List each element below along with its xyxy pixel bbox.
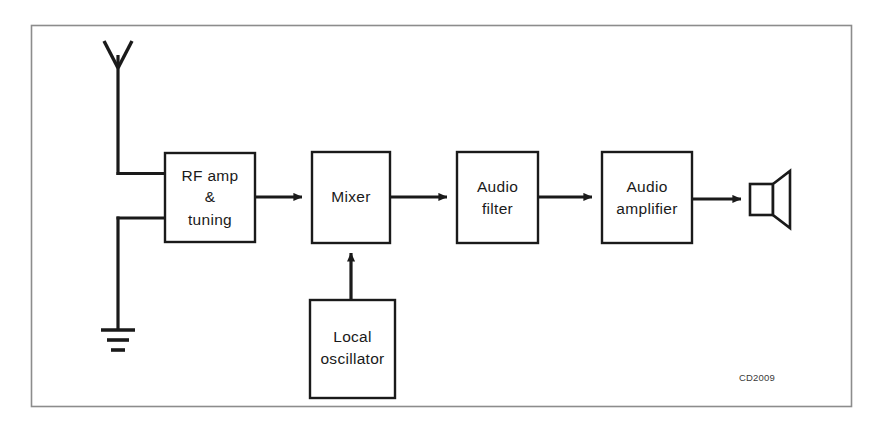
block-label-audio-filter-line-1: Audio <box>477 178 518 195</box>
block-diagram: RF amp & tuning Mixer Local oscillator A… <box>0 0 880 429</box>
block-mixer[interactable]: Mixer <box>312 152 390 243</box>
figure-canvas: RF amp & tuning Mixer Local oscillator A… <box>0 0 880 429</box>
figure-code-label: CD2009 <box>739 372 775 383</box>
figure-border <box>32 26 852 407</box>
block-label-audio-amplifier-line-1: Audio <box>626 178 667 195</box>
block-label-local-oscillator-line-1: Local <box>333 328 372 345</box>
block-label-rf-amp-line-3: tuning <box>188 211 232 228</box>
block-audio-filter[interactable]: Audio filter <box>457 152 538 243</box>
block-label-local-oscillator-line-2: oscillator <box>320 350 384 367</box>
block-label-rf-amp-line-1: RF amp <box>182 167 239 184</box>
block-audio-amplifier[interactable]: Audio amplifier <box>602 152 692 243</box>
block-label-audio-filter-line-2: filter <box>482 200 513 217</box>
block-label-audio-amplifier-line-2: amplifier <box>616 200 677 217</box>
block-label-mixer: Mixer <box>331 188 370 205</box>
block-local-oscillator[interactable]: Local oscillator <box>310 300 395 398</box>
block-label-rf-amp-line-2: & <box>205 188 216 205</box>
block-rf-amp-tuning[interactable]: RF amp & tuning <box>165 153 255 242</box>
